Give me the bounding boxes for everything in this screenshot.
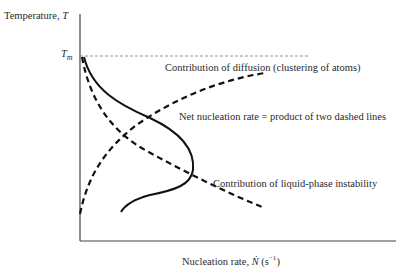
x-axis-label: Nucleation rate, Ṅ (s−1) — [182, 254, 280, 267]
net-rate-curve — [84, 57, 193, 212]
net-rate-annotation: Net nucleation rate = product of two das… — [179, 111, 386, 122]
instability-annotation: Contribution of liquid-phase instability — [213, 178, 377, 189]
x-axis-units: (s — [259, 256, 269, 267]
nucleation-diagram — [0, 0, 418, 269]
tm-subscript: m — [67, 53, 73, 62]
y-axis-label-text: Temperature, — [4, 10, 62, 21]
diffusion-annotation: Contribution of diffusion (clustering of… — [165, 62, 361, 73]
y-axis-symbol: T — [62, 10, 68, 21]
x-axis-label-text: Nucleation rate, — [182, 256, 252, 267]
x-axis-symbol: Ṅ — [252, 256, 259, 267]
y-axis-label: Temperature, T — [4, 10, 68, 21]
tm-label: Tm — [61, 48, 73, 62]
x-axis-units-close: ) — [276, 256, 280, 267]
